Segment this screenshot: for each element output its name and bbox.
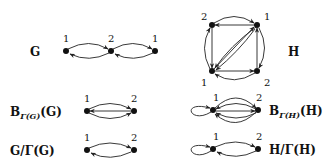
label-tail: (H): [300, 104, 323, 118]
label-sub: Γ(G): [19, 111, 40, 121]
graph-diagram: G 1 2 1 H 2 1 1 2: [0, 0, 334, 167]
node-label: 1: [84, 132, 90, 143]
graph-H: H 2 1 1 2: [201, 11, 299, 88]
node-label: 1: [213, 92, 219, 103]
node-label: 2: [256, 92, 262, 103]
node-label: 1: [152, 33, 158, 44]
node-label: 2: [131, 93, 137, 104]
node-label: 1: [84, 93, 90, 104]
node-label: 2: [201, 11, 207, 22]
label-B: B: [269, 104, 279, 118]
node-label: 1: [264, 11, 270, 22]
label-H: H: [288, 45, 299, 59]
node-label: 1: [213, 131, 219, 142]
label-sub: Γ(H): [278, 110, 300, 120]
svg-text:BΓ(H)(H): BΓ(H)(H): [269, 104, 323, 120]
label-G-quotient: G/Γ(G): [10, 144, 55, 158]
node-label: 1: [201, 77, 207, 88]
node-label: 2: [256, 131, 262, 142]
graph-G-quotient: G/Γ(G) 1 2: [10, 132, 137, 158]
label-tail: (G): [40, 105, 62, 119]
graph-B-G: BΓ(G)(G) 1 2: [10, 93, 137, 121]
node-label: 2: [264, 77, 270, 88]
graph-G: G 1 2 1: [30, 33, 158, 59]
graph-H-quotient: H/Γ(H) 1 2: [191, 131, 316, 157]
node-label: 1: [63, 33, 69, 44]
label-G: G: [30, 45, 40, 59]
graph-B-H: BΓ(H)(H) 1 2: [191, 92, 323, 123]
svg-text:BΓ(G)(G): BΓ(G)(G): [10, 105, 62, 121]
node-label: 2: [131, 132, 137, 143]
label-H-quotient: H/Γ(H): [269, 143, 316, 157]
label-B: B: [10, 105, 20, 119]
node-label: 2: [108, 33, 114, 44]
